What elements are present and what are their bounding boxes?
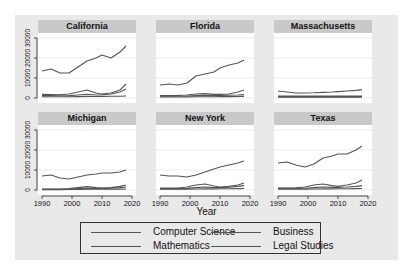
legend: Computer Science Business Mathematics Le… (80, 222, 321, 254)
series-line-mathematics (278, 186, 362, 189)
legend-swatch (211, 246, 261, 247)
legend-label: Legal Studies (273, 239, 334, 253)
legend-swatch (211, 232, 261, 233)
legend-label: Mathematics (153, 239, 210, 253)
legend-label: Business (273, 225, 314, 239)
legend-swatch (91, 246, 141, 247)
x-axis-title: Year (0, 206, 413, 217)
legend-swatch (91, 232, 141, 233)
series-line-computer-science (278, 146, 362, 167)
